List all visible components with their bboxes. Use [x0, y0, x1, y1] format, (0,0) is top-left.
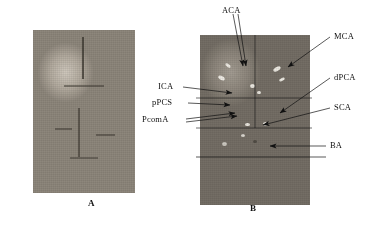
- label-aca: ACA: [222, 5, 241, 15]
- label-dpca: dPCA: [334, 72, 356, 82]
- leader-ica: [183, 87, 232, 93]
- leader-dpca: [280, 78, 330, 113]
- label-ppcs: pPCS: [152, 97, 172, 107]
- label-mca: MCA: [334, 31, 354, 41]
- label-ica: ICA: [158, 81, 173, 91]
- leader-ppcs: [188, 103, 230, 105]
- leader-mca: [288, 37, 330, 67]
- label-pcoma: PcomA: [142, 114, 169, 124]
- leader-sca: [263, 108, 330, 125]
- leader-aca-1: [233, 14, 243, 66]
- leader-pcoma-1: [186, 113, 235, 119]
- leader-aca-2: [238, 14, 246, 66]
- figure-container: A B: [0, 0, 372, 225]
- leader-pcoma-2: [186, 116, 237, 122]
- annotation-overlay: [0, 0, 372, 225]
- label-ba: BA: [330, 140, 342, 150]
- label-sca: SCA: [334, 102, 351, 112]
